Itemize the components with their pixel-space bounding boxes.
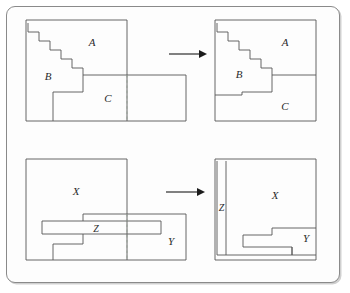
label-top-before-c: C: [104, 92, 112, 104]
label-bottom-after-y: Y: [303, 232, 311, 244]
bottom-after-figure: X Y Z: [213, 157, 323, 267]
top-before-staircase: [28, 23, 127, 75]
label-top-after-b: B: [236, 68, 243, 80]
top-after-lower-step: [215, 75, 272, 95]
top-before-figure: A B C: [24, 18, 190, 126]
top-arrow: [169, 47, 209, 61]
bottom-before-lower-notch: [53, 234, 83, 260]
bottom-after-inner-baseline: [217, 161, 316, 255]
label-top-after-a: A: [281, 36, 289, 48]
label-bottom-before-x: X: [72, 185, 81, 197]
top-after-staircase: [217, 23, 316, 75]
label-bottom-before-z: Z: [93, 223, 99, 234]
label-bottom-after-x: X: [271, 189, 280, 201]
label-top-before-a: A: [88, 36, 96, 48]
bottom-before-figure: X Y Z: [24, 157, 190, 267]
bottom-before-upper-notch: [83, 214, 127, 221]
bottom-before-z-bar: [42, 221, 161, 234]
top-arrow-head-icon: [199, 50, 207, 58]
top-before-outer-wing: [127, 75, 186, 121]
label-top-after-c: C: [281, 100, 289, 112]
bottom-arrow: [166, 185, 208, 199]
top-after-outer-square: [215, 20, 316, 121]
top-before-lower-step: [53, 75, 83, 121]
label-bottom-before-y: Y: [168, 235, 176, 247]
label-bottom-after-z: Z: [219, 202, 225, 213]
bottom-before-outer-square: [26, 159, 127, 260]
top-after-figure: A B C: [213, 18, 321, 126]
figure-canvas: A B C A B C: [0, 0, 350, 293]
bottom-after-outer-square: [215, 159, 316, 260]
bottom-arrow-head-icon: [197, 188, 205, 196]
label-top-before-b: B: [45, 70, 52, 82]
top-before-outer-square: [26, 20, 127, 121]
